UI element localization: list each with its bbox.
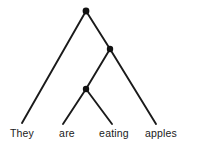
tree-node-right [107,46,113,52]
edge-node3-to-eating [86,89,112,124]
syntax-tree-diagram: They are eating apples [0,0,202,148]
tree-node-inner [83,86,89,92]
tree-nodes [83,8,114,93]
edge-root-to-node2 [86,11,110,49]
edge-node2-to-apples [110,49,156,124]
leaf-label-apples: apples [145,127,177,139]
leaf-label-are: are [59,127,75,139]
edge-root-to-they [22,11,86,123]
tree-graphic [0,0,202,148]
edge-node3-to-are [63,89,86,124]
edge-node2-to-node3 [86,49,110,89]
leaf-label-they: They [10,127,34,139]
tree-node-root [83,8,90,15]
tree-edges [22,11,156,124]
leaf-label-eating: eating [99,127,129,139]
